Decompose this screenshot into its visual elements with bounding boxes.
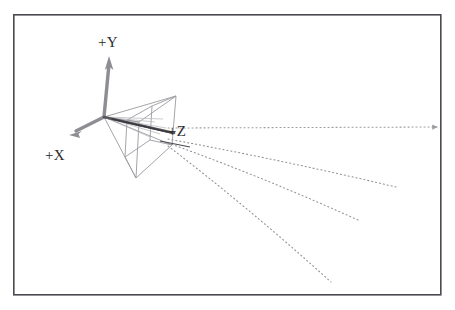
- axis-label-x: +X: [45, 147, 65, 163]
- coordinate-frustum-diagram: +Y +X +Z: [0, 0, 455, 310]
- figure-canvas: +Y +X +Z: [0, 0, 455, 310]
- axis-label-y: +Y: [98, 34, 118, 50]
- axis-label-z: +Z: [168, 123, 186, 139]
- figure-border: [14, 15, 441, 295]
